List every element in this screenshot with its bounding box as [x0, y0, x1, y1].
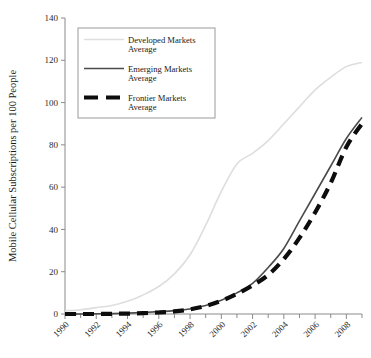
series-line-2[interactable]	[65, 124, 362, 314]
line-chart: 0204060801001201401990199219941996199820…	[0, 0, 371, 358]
x-tick-label: 1992	[82, 319, 102, 339]
x-tick-label: 1996	[145, 319, 165, 339]
x-tick-label: 2008	[332, 319, 352, 339]
y-tick-label: 40	[49, 225, 59, 235]
x-tick-label: 2002	[239, 319, 259, 339]
legend-sublabel-2[interactable]: Average	[128, 102, 157, 112]
x-tick-label: 2006	[301, 319, 321, 339]
y-tick-label: 60	[49, 182, 59, 192]
y-tick-label: 80	[49, 140, 59, 150]
y-tick-label: 20	[49, 267, 59, 277]
y-tick-label: 0	[54, 309, 59, 319]
y-tick-label: 140	[45, 13, 59, 23]
y-tick-label: 120	[45, 55, 59, 65]
series-line-1[interactable]	[65, 117, 362, 314]
x-tick-label: 1998	[176, 319, 196, 339]
x-tick-label: 2004	[270, 319, 290, 339]
y-axis-title: Mobile Cellular Subscriptions per 100 Pe…	[7, 70, 18, 263]
x-tick-label: 1990	[51, 319, 71, 339]
legend-sublabel-0[interactable]: Average	[128, 44, 157, 54]
chart-container: 0204060801001201401990199219941996199820…	[0, 0, 371, 358]
x-tick-label: 1994	[114, 319, 134, 339]
legend-sublabel-1[interactable]: Average	[128, 73, 157, 83]
y-tick-label: 100	[45, 98, 59, 108]
x-tick-label: 2000	[207, 319, 227, 339]
